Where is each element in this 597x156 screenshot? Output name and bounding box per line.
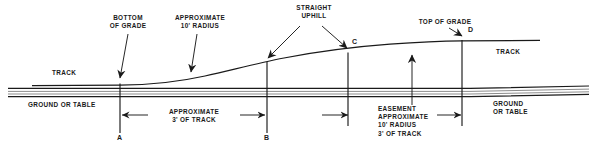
label-approximate-10-radius: APPROXIMATE 10' RADIUS (163, 14, 237, 30)
point-label-C: C (352, 38, 357, 45)
label-top-of-grade: TOP OF GRADE (404, 18, 486, 26)
leader-top-of-grade (449, 28, 462, 36)
label-track-left: TRACK (52, 69, 76, 77)
diagram-canvas (0, 0, 597, 156)
point-label-B: B (264, 134, 269, 141)
label-bottom-of-grade: BOTTOM OF GRADE (95, 14, 161, 30)
point-label-A: A (117, 134, 122, 141)
label-easement-block: EASEMENT APPROXIMATE 10' RADIUS 3' OF TR… (378, 105, 428, 138)
label-straight-uphill: STRAIGHT UPHILL (288, 4, 340, 20)
grade-transition-diagram: BOTTOM OF GRADE APPROXIMATE 10' RADIUS S… (0, 0, 597, 156)
label-ground-or-table-right: GROUND OR TABLE (493, 100, 528, 116)
leader-10-radius (191, 34, 197, 72)
leader-straight-uphill-right (322, 26, 347, 48)
leader-bottom-of-grade (120, 34, 128, 78)
leader-straight-uphill-left (268, 26, 300, 58)
label-track-right: TRACK (496, 48, 520, 56)
ground-table-lines (8, 86, 589, 97)
point-label-D: D (468, 26, 473, 33)
label-approximate-3-of-track: APPROXIMATE 3' OF TRACK (155, 108, 233, 124)
callout-leader-lines (120, 26, 462, 105)
track-profile-line (32, 40, 540, 85)
label-ground-or-table-left: GROUND OR TABLE (28, 101, 96, 109)
